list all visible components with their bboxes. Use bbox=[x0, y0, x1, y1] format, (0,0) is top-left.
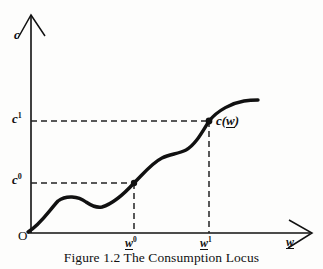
x-tick-w0-superscript: 0 bbox=[133, 235, 137, 244]
figure-container: c O c1 c0 w0 w1 w c(w) Figure 1.2 The Co… bbox=[0, 0, 323, 269]
x-tick-w1-base: w bbox=[200, 238, 208, 250]
x-tick-w0-base: w bbox=[125, 238, 133, 250]
x-axis-label: w bbox=[286, 236, 294, 249]
curve-label-suffix: ) bbox=[235, 113, 239, 128]
x-tick-w1-superscript: 1 bbox=[208, 235, 212, 244]
data-point-w1-c1 bbox=[206, 118, 213, 125]
y-axis-label: c bbox=[14, 28, 20, 41]
y-tick-label-c1: c1 bbox=[12, 112, 22, 125]
y-tick-label-c0: c0 bbox=[12, 173, 22, 186]
origin-label: O bbox=[18, 229, 27, 242]
x-tick-label-w0: w0 bbox=[125, 237, 137, 250]
consumption-locus-chart bbox=[0, 0, 323, 269]
y-tick-c1-superscript: 1 bbox=[18, 111, 22, 120]
figure-caption: Figure 1.2 The Consumption Locus bbox=[0, 250, 323, 266]
x-axis-label-text: w bbox=[286, 237, 294, 249]
data-point-w0-c0 bbox=[131, 180, 137, 186]
curve-label-prefix: c( bbox=[216, 113, 226, 128]
curve-label: c(w) bbox=[216, 114, 239, 128]
curve-label-variable: w bbox=[226, 115, 235, 128]
x-tick-label-w1: w1 bbox=[200, 237, 212, 250]
y-tick-c0-superscript: 0 bbox=[18, 172, 22, 181]
